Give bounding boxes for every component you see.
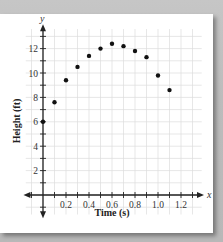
data-point: [52, 100, 56, 104]
y-tick-label: 12: [29, 44, 39, 54]
data-point: [133, 49, 137, 53]
x-tick-label: 0.8: [129, 200, 141, 210]
x-axis-arrow-right-icon: [197, 192, 204, 198]
x-tick-label: 0.4: [83, 200, 95, 210]
axes: [23, 24, 204, 218]
data-point: [98, 46, 102, 50]
data-point: [64, 78, 68, 82]
data-point: [144, 55, 148, 59]
data-point: [156, 73, 160, 77]
y-axis-arrow-up-icon: [40, 24, 46, 31]
x-tick-label: 0.2: [60, 200, 72, 210]
y-tick-label: 2: [33, 166, 38, 176]
y-axis-variable: y: [39, 13, 45, 24]
data-point: [121, 44, 125, 48]
tick-labels: 0.20.40.60.81.01.224681012: [29, 44, 188, 210]
data-points: [41, 42, 172, 124]
x-tick-label: 1.2: [175, 200, 187, 210]
x-axis-variable: x: [206, 189, 212, 200]
scatter-chart: 0.20.40.60.81.01.224681012 Time (s) Heig…: [0, 0, 223, 242]
y-axis-title: Height (ft): [11, 99, 23, 144]
y-tick-label: 4: [33, 142, 38, 152]
x-tick-label: 1.0: [152, 200, 164, 210]
data-point: [87, 54, 91, 58]
grid-lines: [26, 29, 202, 214]
x-axis-arrow-left-icon: [23, 192, 30, 198]
y-tick-label: 6: [33, 117, 38, 127]
data-point: [167, 88, 171, 92]
y-axis-arrow-down-icon: [40, 211, 46, 218]
data-point: [75, 65, 79, 69]
data-point: [41, 120, 45, 124]
y-tick-label: 8: [33, 93, 38, 103]
data-point: [110, 42, 114, 46]
x-axis-title: Time (s): [94, 207, 129, 219]
y-tick-label: 10: [29, 69, 39, 79]
